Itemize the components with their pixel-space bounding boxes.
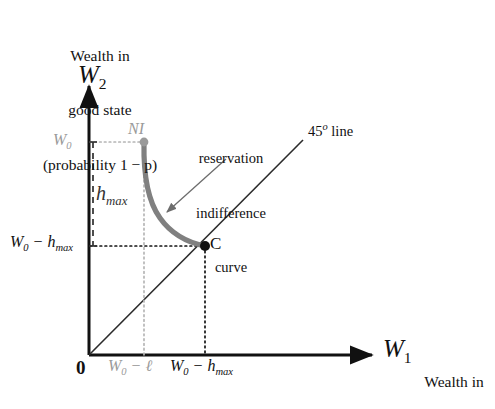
x-axis-variable-letter: W: [383, 335, 404, 362]
y-tick-hmax-suffix-subscript: max: [55, 242, 73, 253]
y-tick-label-w0: W0: [53, 131, 72, 153]
x-tick-hmax-suffix-subscript: max: [215, 366, 233, 377]
reservation-curve-caption-line-3: curve: [172, 258, 290, 276]
x-axis-title-line-1: Wealth in: [412, 373, 495, 391]
x-tick-hmax-suffix: − h: [189, 357, 216, 374]
y-axis-title-line-2: good state: [12, 101, 188, 119]
x-axis-variable-subscript: 1: [404, 349, 412, 366]
forty-five-degree-line-label: 45o line: [308, 121, 353, 140]
x-tick-l-letter: W: [108, 357, 121, 374]
x-axis-variable: W1: [383, 334, 412, 367]
reservation-curve-caption-line-1: reservation: [172, 149, 290, 167]
line45-suffix: line: [328, 123, 353, 139]
y-axis-title-line-3-text: (probability 1 − p): [43, 156, 157, 173]
y-tick-w0-subscript: 0: [66, 140, 71, 151]
hmax-label: hmax: [96, 182, 127, 209]
economics-diagram: Wealth in good state (probability 1 − p)…: [0, 0, 495, 409]
y-tick-w0-letter: W: [53, 131, 66, 148]
x-tick-label-w0-minus-hmax: W0 − hmax: [170, 357, 233, 379]
y-axis-variable-letter: W: [78, 61, 99, 88]
line45-number: 45: [308, 123, 323, 139]
x-axis-title: Wealth in bad state (probability p): [412, 336, 495, 409]
x-tick-hmax-letter: W: [170, 357, 183, 374]
y-axis-title: Wealth in good state (probability 1 − p): [12, 10, 188, 211]
origin-label: 0: [76, 357, 86, 379]
y-axis-variable-subscript: 2: [99, 75, 107, 92]
y-tick-hmax-suffix: − h: [29, 233, 56, 250]
hmax-label-subscript: max: [106, 194, 127, 208]
hmax-label-letter: h: [96, 182, 106, 204]
y-tick-hmax-letter: W: [10, 233, 23, 250]
x-tick-l-suffix: − ℓ: [127, 357, 152, 374]
reservation-curve-caption-line-2: indifference: [172, 204, 290, 222]
reservation-curve-caption: reservation indifference curve: [172, 113, 290, 312]
y-axis-title-line-3: (probability 1 − p): [12, 156, 188, 174]
y-axis-variable: W2: [78, 60, 107, 93]
x-tick-label-w0-minus-l: W0 − ℓ: [108, 357, 152, 379]
y-tick-label-w0-minus-hmax: W0 − hmax: [10, 233, 73, 255]
ni-point-label: NI: [128, 120, 144, 139]
